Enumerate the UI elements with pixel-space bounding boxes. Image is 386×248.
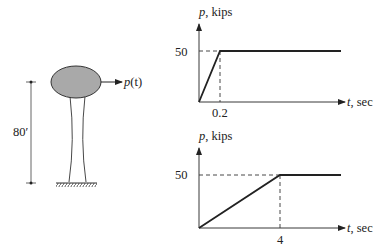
load-curve xyxy=(199,175,341,228)
height-dimension: 80′ xyxy=(13,81,36,185)
lumped-mass xyxy=(51,66,101,98)
x-axis-label: t, sec xyxy=(347,95,373,109)
ground-support xyxy=(56,183,97,187)
structural-dynamics-figure: 80′ p(t) p, kips t, sec 50 0.2 p, kips t… xyxy=(0,0,386,248)
x-tick-label: 0.2 xyxy=(212,106,228,120)
y-tick-label: 50 xyxy=(175,45,188,59)
height-label: 80′ xyxy=(13,125,29,139)
y-axis-label: p, kips xyxy=(198,5,232,19)
tower-diagram: 80′ p(t) xyxy=(13,66,142,187)
x-tick-label: 4 xyxy=(277,233,284,247)
y-axis-label: p, kips xyxy=(198,129,232,143)
x-axis-label: t, sec xyxy=(347,221,373,235)
load-graph-top: p, kips t, sec 50 0.2 xyxy=(175,5,373,120)
load-graph-bottom: p, kips t, sec 50 4 xyxy=(175,129,373,247)
load-label: p(t) xyxy=(123,75,142,89)
y-tick-label: 50 xyxy=(175,168,188,182)
tower-shaft xyxy=(69,96,86,182)
